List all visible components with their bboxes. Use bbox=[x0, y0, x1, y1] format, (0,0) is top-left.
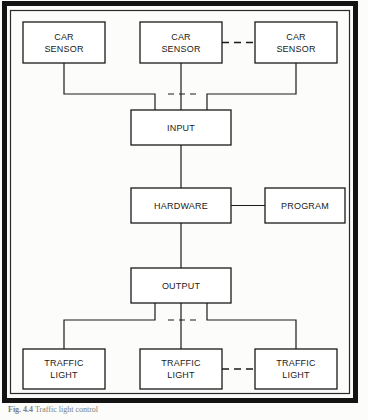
box-traffic-light-right bbox=[255, 349, 337, 389]
box-car-sensor-left bbox=[23, 22, 105, 63]
connector-output-to-light-right bbox=[207, 303, 296, 349]
box-program bbox=[265, 188, 345, 223]
box-traffic-light-left bbox=[23, 349, 105, 389]
connectors-output-to-lights bbox=[64, 303, 296, 349]
node-boxes bbox=[23, 22, 345, 389]
figure-caption: Fig. 4.4 Traffic light control bbox=[8, 405, 338, 420]
box-output bbox=[131, 268, 231, 303]
figure-number: Fig. 4.4 bbox=[8, 405, 33, 414]
connectors-sensors-to-input bbox=[64, 63, 296, 110]
box-car-sensor-middle bbox=[140, 22, 222, 63]
box-input bbox=[131, 110, 231, 145]
connector-output-to-light-left bbox=[64, 303, 155, 349]
box-traffic-light-middle bbox=[140, 349, 222, 389]
figure-container: CAR SENSOR CAR SENSOR CAR SENSOR INPUT H… bbox=[0, 0, 368, 420]
figure-caption-text: Traffic light control bbox=[35, 405, 98, 414]
box-car-sensor-right bbox=[255, 22, 337, 63]
block-diagram bbox=[0, 0, 368, 420]
connector-sensor-right-to-input bbox=[207, 63, 296, 110]
connector-sensor-left-to-input bbox=[64, 63, 155, 110]
box-hardware bbox=[131, 188, 231, 223]
